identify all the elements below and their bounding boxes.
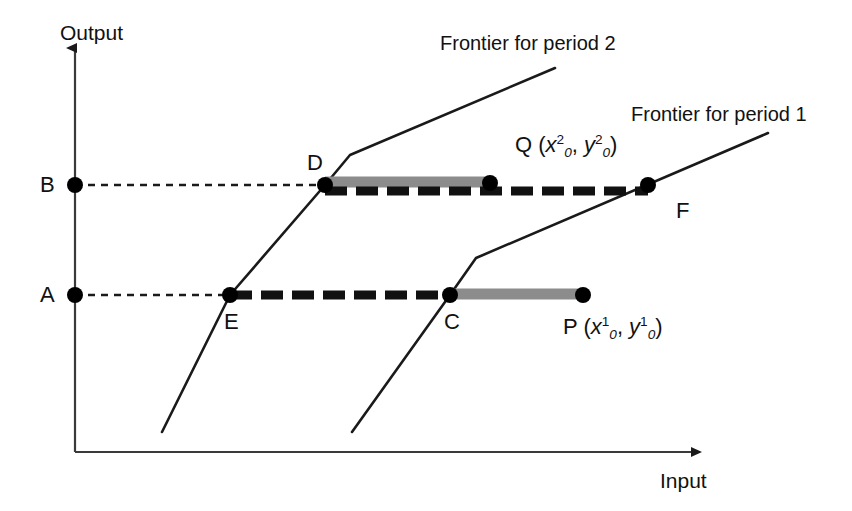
point-label-E: E — [224, 311, 239, 333]
y-axis-label: Output — [60, 22, 123, 43]
measure-bars — [230, 182, 648, 295]
point-marker-P — [575, 287, 591, 303]
coord-P-prefix: P ( — [563, 314, 591, 339]
coord-Q-sup-x: 2 — [557, 132, 565, 147]
x-axis-label: Input — [660, 470, 707, 491]
level-marker-A — [67, 287, 83, 303]
point-label-F: F — [676, 200, 689, 222]
coord-P-suffix: ) — [655, 314, 662, 339]
frontier-label-period2: Frontier for period 2 — [440, 33, 616, 53]
point-label-C: C — [444, 311, 460, 333]
coord-Q-var-x: x — [546, 132, 557, 157]
coord-Q-var-y: y — [584, 132, 595, 157]
frontier-label-period1: Frontier for period 1 — [631, 104, 807, 124]
coord-Q-prefix: Q ( — [515, 132, 546, 157]
coordinate-label-P: P (x10, y10) — [563, 316, 663, 338]
coord-P-var-x: x — [591, 314, 602, 339]
guide-lines — [75, 185, 325, 295]
axis-group — [75, 48, 700, 452]
level-marker-B — [67, 177, 83, 193]
diagram-canvas — [0, 0, 852, 511]
coord-Q-sub-y: 0 — [603, 145, 611, 160]
level-label-A: A — [40, 284, 55, 306]
point-marker-F — [640, 177, 656, 193]
point-marker-D — [317, 177, 333, 193]
coord-Q-separator: , — [572, 132, 584, 157]
coord-Q-sub-x: 0 — [564, 145, 572, 160]
coordinate-label-Q: Q (x20, y20) — [515, 134, 617, 156]
coord-P-sup-y: 1 — [640, 314, 648, 329]
coord-Q-suffix: ) — [610, 132, 617, 157]
point-marker-Q — [482, 175, 498, 191]
coord-P-var-y: y — [629, 314, 640, 339]
coord-Q-sup-y: 2 — [595, 132, 603, 147]
coord-P-separator: , — [617, 314, 629, 339]
level-label-B: B — [40, 174, 55, 196]
point-marker-C — [442, 287, 458, 303]
point-label-D: D — [307, 152, 323, 174]
frontier-diagram: Output Input B A Frontier for period 2 F… — [0, 0, 852, 511]
coord-P-sub-x: 0 — [609, 327, 617, 342]
point-marker-E — [222, 287, 238, 303]
